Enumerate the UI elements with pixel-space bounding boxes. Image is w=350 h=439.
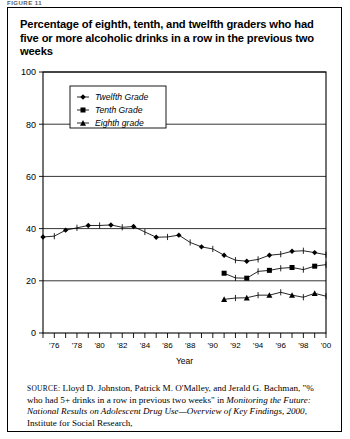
y-tick-label: 80	[26, 120, 36, 130]
data-point-marker	[312, 290, 318, 296]
line-chart: 020406080100'76'78'80'82'84'86'88'90'92'…	[14, 66, 336, 371]
series-triangle	[221, 289, 326, 302]
legend-label: Tenth Grade	[95, 105, 143, 115]
x-tick-label: '80	[94, 341, 105, 350]
data-point-marker	[244, 259, 249, 264]
data-point-marker	[81, 108, 86, 113]
data-point-marker	[244, 276, 249, 281]
data-point-marker	[221, 253, 226, 258]
x-tick-label: '94	[253, 341, 264, 350]
data-point-marker	[267, 253, 272, 258]
x-tick-label: '76	[49, 341, 60, 350]
figure-title: Percentage of eighth, tenth, and twelfth…	[20, 18, 320, 59]
data-point-marker	[222, 271, 227, 276]
x-tick-label: '90	[208, 341, 219, 350]
data-point-marker	[40, 234, 45, 239]
legend-label: Twelfth Grade	[95, 92, 149, 102]
x-tick-label: '00	[321, 341, 332, 350]
figure-label: FIGURE 11	[7, 0, 42, 7]
chart-plot-area: 020406080100'76'78'80'82'84'86'88'90'92'…	[14, 66, 336, 371]
x-tick-label: '78	[72, 341, 83, 350]
series-square	[222, 262, 326, 282]
data-point-marker	[312, 264, 317, 269]
x-tick-label: '92	[230, 341, 241, 350]
source-citation: SOURCE: Lloyd D. Johnston, Patrick M. O'…	[27, 383, 327, 429]
y-tick-label: 40	[26, 224, 36, 234]
source-label: SOURCE:	[27, 384, 60, 393]
data-point-marker	[154, 235, 159, 240]
x-tick-label: '86	[162, 341, 173, 350]
data-point-marker	[290, 265, 295, 270]
data-point-marker	[267, 268, 272, 273]
y-tick-label: 100	[21, 67, 36, 77]
data-point-marker	[176, 232, 181, 237]
series-line	[224, 265, 326, 279]
x-tick-label: '82	[117, 341, 128, 350]
legend-label: Eighth grade	[95, 118, 144, 128]
figure-page: FIGURE 11 Percentage of eighth, tenth, a…	[0, 0, 350, 439]
x-tick-label: '88	[185, 341, 196, 350]
y-tick-label: 60	[26, 172, 36, 182]
y-tick-label: 20	[26, 276, 36, 286]
y-tick-label: 0	[31, 328, 36, 338]
data-point-marker	[312, 250, 317, 255]
data-point-marker	[199, 244, 204, 249]
data-point-marker	[289, 249, 294, 254]
series-line	[224, 292, 326, 299]
x-tick-label: '84	[140, 341, 151, 350]
data-point-marker	[108, 222, 113, 227]
series-line	[43, 225, 326, 261]
x-tick-label: '96	[276, 341, 287, 350]
data-point-marker	[86, 223, 91, 228]
x-tick-label: '98	[298, 341, 309, 350]
chart-legend: Twelfth GradeTenth GradeEighth grade	[70, 86, 166, 128]
x-axis-title: Year	[176, 356, 193, 366]
